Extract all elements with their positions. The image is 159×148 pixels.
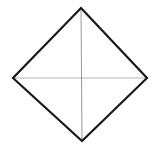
rhombus-diagram-svg: [0, 0, 159, 148]
figure-canvas: [0, 0, 159, 148]
diagram-background: [0, 0, 159, 148]
